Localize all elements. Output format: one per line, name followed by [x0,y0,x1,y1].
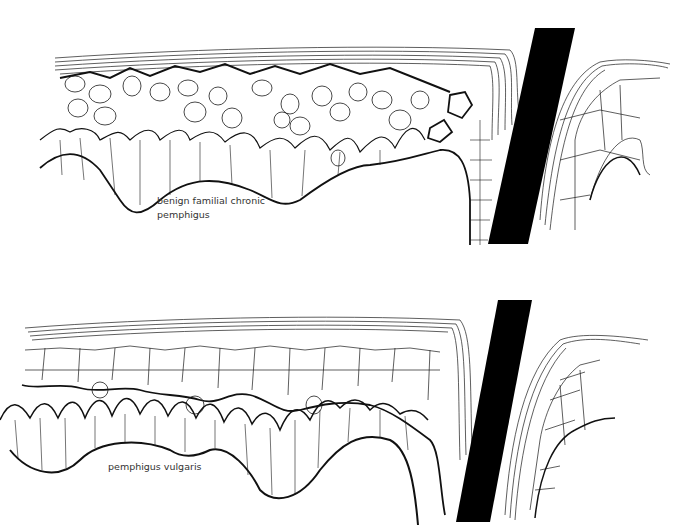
panel-pemphigus-vulgaris: pemphigus vulgaris [0,290,698,529]
label-line-1: benign familial chronic [157,194,265,208]
illustration-bottom [0,290,698,529]
label-line-2: pemphigus [157,208,265,222]
label-benign-familial-chronic-pemphigus: benign familial chronic pemphigus [157,194,265,222]
label-pemphigus-vulgaris: pemphigus vulgaris [108,460,201,474]
panel-benign-familial-chronic-pemphigus: benign familial chronic pemphigus [0,0,698,260]
cut-bar-bottom [456,300,532,522]
label-line-1: pemphigus vulgaris [108,460,201,474]
illustration-top [0,0,698,260]
